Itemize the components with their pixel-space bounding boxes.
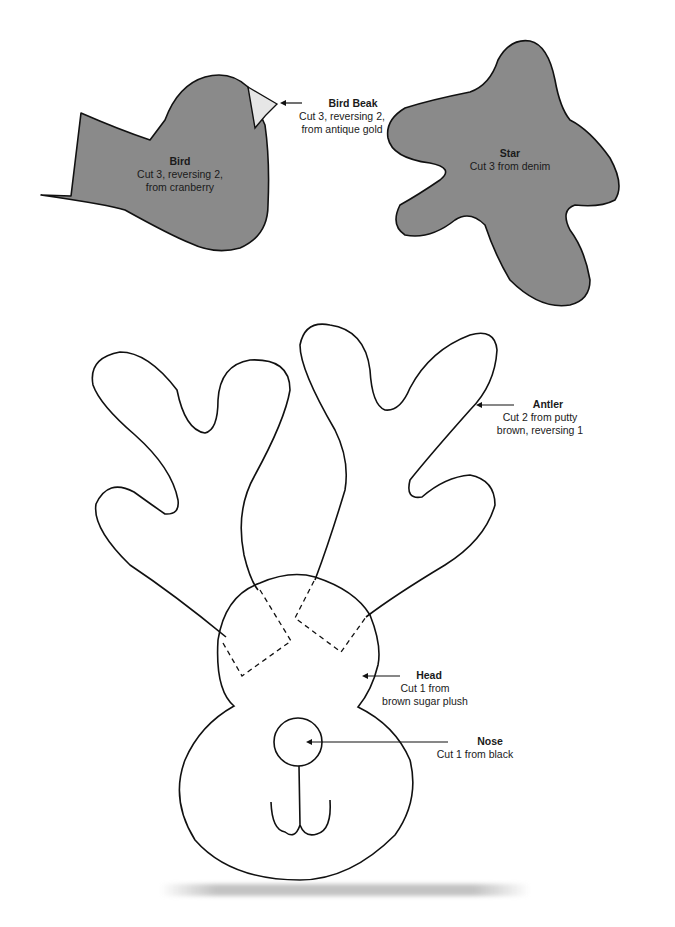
star-title: Star (455, 147, 565, 160)
bird-beak-desc-line2: from antique gold (282, 123, 402, 136)
antler-desc-line1: Cut 2 from putty (480, 411, 600, 424)
bird-beak-title: Bird Beak (282, 97, 402, 110)
bird-desc-line2: from cranberry (120, 181, 240, 194)
nose-desc-line1: Cut 1 from black (420, 748, 530, 761)
antler-right-dashed-guide (295, 581, 366, 652)
nose-arrowhead (306, 739, 312, 745)
nose-title: Nose (420, 735, 530, 748)
bird-label: Bird Cut 3, reversing 2, from cranberry (120, 155, 240, 194)
page-edge-shadow (160, 884, 530, 896)
antler-left-shape (92, 352, 290, 637)
bird-beak-label: Bird Beak Cut 3, reversing 2, from antiq… (282, 97, 402, 136)
bird-desc-line1: Cut 3, reversing 2, (120, 168, 240, 181)
antler-label: Antler Cut 2 from putty brown, reversing… (480, 398, 600, 437)
star-shape (388, 41, 619, 306)
antler-desc-line2: brown, reversing 1 (480, 424, 600, 437)
pattern-canvas (0, 0, 675, 927)
head-desc-line1: Cut 1 from (365, 682, 485, 695)
head-label: Head Cut 1 from brown sugar plush (365, 669, 485, 708)
star-label: Star Cut 3 from denim (455, 147, 565, 173)
mouth-line (271, 766, 330, 835)
head-shape (179, 575, 412, 880)
star-desc-line1: Cut 3 from denim (455, 160, 565, 173)
antler-right-shape (300, 324, 497, 617)
head-title: Head (365, 669, 485, 682)
nose-label: Nose Cut 1 from black (420, 735, 530, 761)
bird-title: Bird (120, 155, 240, 168)
bird-beak-desc-line1: Cut 3, reversing 2, (282, 110, 402, 123)
head-desc-line2: brown sugar plush (365, 695, 485, 708)
antler-title: Antler (480, 398, 600, 411)
